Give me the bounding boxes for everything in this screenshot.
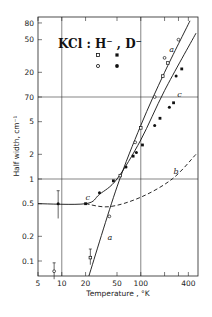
open-circle-point [134,141,137,144]
open-square-point [162,75,165,78]
y-tick-label: 0.2 [22,232,34,241]
legend-open-circle-icon [96,64,99,67]
chart: 5102050100400 805020705210.50.20.1 accba… [0,0,212,317]
y-tick-label: 80 [24,19,34,28]
filled-circle-point [125,166,128,169]
x-tick-label: 50 [112,279,122,288]
open-circle-point [53,270,56,273]
open-circle-point [177,38,180,41]
filled-square-point [159,117,162,120]
x-tick-label: 10 [57,279,67,288]
y-tick-label: 2 [29,150,34,159]
y-axis-title: Half width, cm⁻¹ [12,115,21,176]
filled-square-point [180,68,183,71]
filled-square-point [141,144,144,147]
filled-circle-point [168,106,171,109]
x-tick-label: 5 [36,279,41,288]
open-square-point [89,256,92,259]
y-axis-ticks: 805020705210.50.20.1 [22,19,42,266]
curve-label-a: a [169,45,174,54]
filled-square-point [132,155,135,158]
y-tick-label: 20 [24,68,34,77]
open-square-point [119,174,122,177]
legend-filled-circle-icon [115,64,119,68]
y-tick-label: 5 [29,117,34,126]
curve-label-a: a [108,233,113,242]
y-tick-label: 50 [24,35,34,44]
open-square-point [139,127,142,130]
filled-square-point [84,202,87,205]
filled-circle-point [57,202,60,205]
legend-title: KCl : H⁻ , D⁻ [58,37,142,51]
curve-label-c: c [86,193,91,202]
filled-circle-point [98,191,101,194]
open-circle-point [163,56,166,59]
data-points [53,38,184,279]
x-tick-label: 100 [134,279,149,288]
curve-a [89,21,190,276]
curve-label-c: c [177,90,182,99]
y-tick-label: 1 [29,175,34,184]
x-axis-title: Temperature , °K [85,289,150,298]
filled-circle-point [153,124,156,127]
legend [96,53,119,68]
open-circle-point [108,215,111,218]
y-tick-label: 0.5 [22,199,34,208]
y-tick-label: 70 [24,93,34,102]
curve-label-b: b [174,167,179,176]
filled-square-point [172,101,175,104]
filled-square-point [112,179,115,182]
filled-circle-point [175,75,178,78]
legend-filled-square-icon [115,53,118,56]
open-square-point [167,62,170,65]
y-tick-label: 0.1 [22,257,34,266]
open-circle-point [153,96,156,99]
filled-circle-point [135,151,138,154]
x-tick-label: 20 [81,279,91,288]
curve-labels: accba [86,45,183,242]
legend-open-square-icon [97,54,100,57]
x-tick-label: 400 [181,279,196,288]
